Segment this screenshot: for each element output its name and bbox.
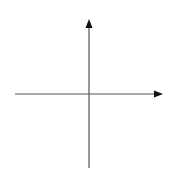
y-axis-arrowhead-icon <box>86 19 93 28</box>
x-axis-arrowhead-icon <box>154 91 163 98</box>
axes-diagram <box>0 0 170 177</box>
coordinate-axes <box>0 0 170 177</box>
